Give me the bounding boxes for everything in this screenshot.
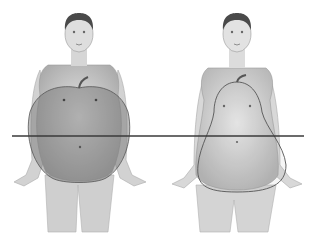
body-shape-illustration: apple-shaped body pear-shaped body <box>0 0 314 237</box>
pear-figure <box>172 13 302 232</box>
apple-figure <box>14 13 146 232</box>
apple-outline <box>28 87 129 183</box>
